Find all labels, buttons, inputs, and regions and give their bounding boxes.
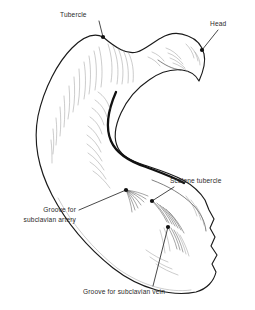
label-head: Head <box>210 20 227 27</box>
label-groove-subclavian-artery-line2: subclavian artery <box>24 216 77 224</box>
marker-dot-scalene-tubercle <box>150 199 154 203</box>
marker-dot-head <box>200 48 204 52</box>
clavicle-figure: Tubercle Head Scalene tubercle Groove fo… <box>0 0 255 310</box>
label-groove-subclavian-artery-line1: Groove for <box>43 206 76 213</box>
marker-dot-tubercle <box>101 35 105 39</box>
label-groove-subclavian-vein: Groove for subclavian vein <box>83 288 165 295</box>
clavicle-illustration: Tubercle Head Scalene tubercle Groove fo… <box>0 0 255 310</box>
marker-dot-subclavian-artery <box>124 188 128 192</box>
label-tubercle: Tubercle <box>60 11 87 18</box>
label-scalene-tubercle: Scalene tubercle <box>170 177 222 184</box>
marker-dot-subclavian-vein <box>166 225 170 229</box>
